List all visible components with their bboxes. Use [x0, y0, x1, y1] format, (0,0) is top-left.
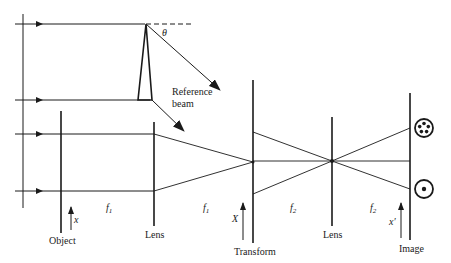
- dot-circle-icon: [415, 180, 433, 198]
- lens-2-label: Lens: [323, 229, 343, 240]
- beam-arrow-icon: [36, 131, 43, 137]
- reference-section: θ Reference beam: [15, 21, 220, 131]
- transform-label: Transform: [234, 246, 276, 257]
- theta-label: θ: [162, 27, 167, 38]
- prism-shape: [138, 24, 152, 100]
- lens-1-label: Lens: [145, 229, 165, 240]
- f1-label-left: f1: [106, 202, 112, 215]
- f2-label-right: f2: [370, 202, 377, 215]
- optical-diagram: θ Reference beam x Object f1 Lens f1 X T…: [0, 0, 451, 263]
- object-label: Object: [49, 235, 76, 246]
- beam-arrow-icon: [36, 21, 43, 27]
- f1-label-right: f1: [203, 202, 209, 215]
- reference-beam-label-2: beam: [172, 98, 194, 109]
- beam-arrow-icon: [36, 188, 43, 194]
- x-prime-axis-label: x′: [388, 216, 396, 227]
- x-axis-label: x: [73, 214, 79, 225]
- beam-arrow-icon: [36, 97, 43, 103]
- image-label: Image: [399, 243, 425, 254]
- reference-beam-label: Reference: [172, 86, 213, 97]
- f2-label-left: f2: [290, 202, 297, 215]
- reference-beam-arrow: [146, 24, 220, 90]
- X-axis-label: X: [231, 213, 239, 224]
- five-dot-circle-icon: [415, 119, 433, 137]
